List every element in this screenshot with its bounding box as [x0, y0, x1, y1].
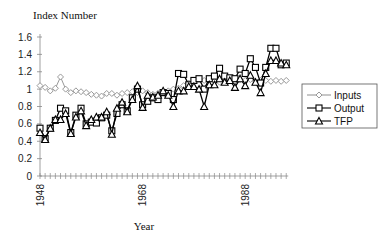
y-tick-label: 1.6: [18, 32, 32, 43]
diamond-marker: [278, 78, 284, 84]
x-axis: 194819681988: [35, 173, 289, 206]
square-marker: [273, 45, 279, 51]
square-marker: [211, 73, 217, 79]
square-marker: [181, 71, 187, 77]
diamond-marker: [78, 89, 84, 95]
y-tick-label: 0.2: [18, 153, 32, 164]
y-axis-title: Index Number: [33, 9, 97, 21]
y-tick-label: 0.6: [18, 118, 32, 129]
y-tick-label: 1.2: [18, 66, 32, 77]
legend-label: Output: [334, 103, 364, 114]
legend-label: Inputs: [334, 90, 361, 101]
diamond-marker: [283, 77, 289, 83]
diamond-marker: [63, 86, 69, 92]
square-marker: [247, 56, 253, 62]
y-tick-label: 0.8: [18, 101, 32, 112]
diamond-marker: [273, 77, 279, 83]
square-marker: [242, 70, 248, 76]
y-tick-label: 0: [26, 171, 32, 182]
diamond-marker: [268, 78, 274, 84]
square-marker: [316, 105, 322, 111]
y-axis: 00.20.40.60.811.21.41.6: [18, 32, 42, 182]
x-axis-title: Year: [134, 220, 155, 232]
x-tick-label: 1948: [35, 184, 46, 207]
y-tick-label: 1: [26, 84, 32, 95]
legend-label: TFP: [334, 116, 353, 127]
square-marker: [217, 65, 223, 71]
x-tick-label: 1988: [240, 184, 251, 207]
triangle-marker: [103, 108, 110, 115]
square-marker: [196, 76, 202, 82]
y-tick-label: 0.4: [18, 136, 32, 147]
triangle-marker: [201, 103, 208, 110]
diamond-marker: [93, 92, 99, 98]
series-tfp: [37, 57, 290, 143]
x-tick-label: 1968: [137, 184, 148, 207]
triangle-marker: [170, 103, 177, 110]
legend: InputsOutputTFP: [302, 84, 377, 128]
triangle-marker: [257, 89, 264, 96]
diamond-marker: [58, 74, 64, 80]
y-tick-label: 1.4: [18, 49, 32, 60]
plot-area: [37, 45, 290, 142]
chart: Index Number 00.20.40.60.811.21.41.6 194…: [0, 0, 382, 250]
triangle-marker: [134, 82, 141, 89]
square-marker: [252, 64, 258, 70]
series-line: [40, 61, 286, 140]
